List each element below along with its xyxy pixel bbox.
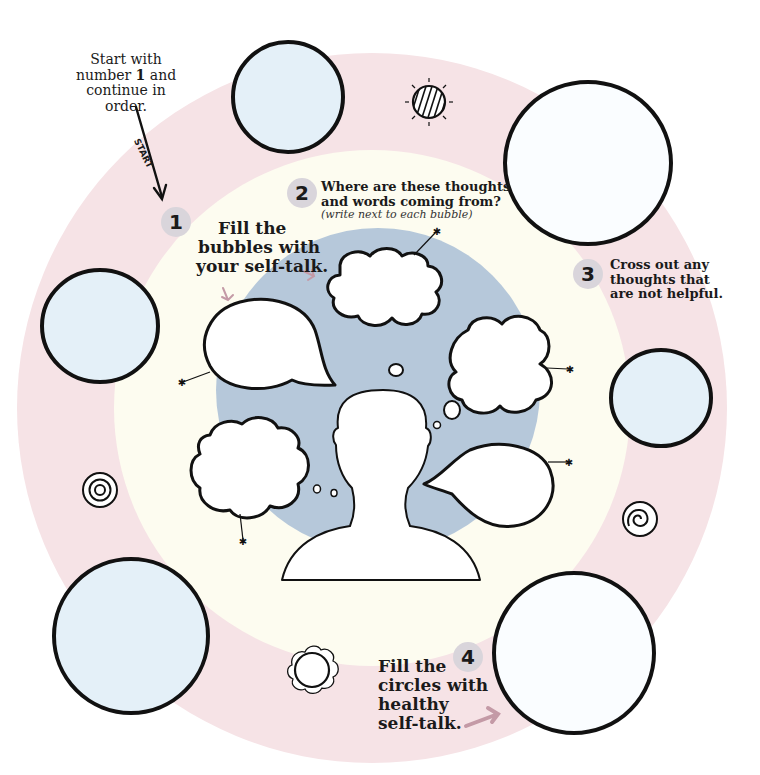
step-line: circles with (378, 676, 488, 695)
concentric-circles-icon (83, 473, 117, 507)
intro-instructions: Start with number 1 and continue in orde… (66, 52, 186, 115)
step-3-text: Cross out any thoughts that are not help… (610, 258, 723, 302)
step-line: healthy (378, 695, 488, 714)
intro-number: 1 (136, 67, 146, 83)
intro-line: number 1 and (66, 68, 186, 84)
step-line: thoughts that (610, 273, 723, 288)
step-1-badge: 1 (161, 207, 191, 237)
step-note: (write next to each bubble) (321, 209, 510, 221)
step-3-badge: 3 (573, 259, 603, 289)
step-line: Cross out any (610, 258, 723, 273)
step-1-text: Fill the bubbles with your self-talk. (218, 219, 328, 276)
scalloped-flower-icon (288, 646, 339, 693)
step-2-badge: 2 (287, 178, 317, 208)
intro-text: and (145, 67, 176, 83)
step-line: and words coming from? (321, 195, 510, 210)
spiral-icon (623, 502, 657, 536)
step-line: Where are these thoughts (321, 180, 510, 195)
step-4-text: Fill the circles with healthy self-talk. (378, 657, 488, 733)
step-line: are not helpful. (610, 287, 723, 302)
step-2-text: Where are these thoughts and words comin… (321, 180, 510, 221)
step-line: self-talk. (378, 714, 488, 733)
step-line: Fill the (378, 657, 488, 676)
step-line: Fill the (218, 219, 328, 238)
intro-line: order. (66, 99, 186, 115)
intro-text: number (76, 67, 136, 83)
striped-sun-icon (405, 78, 453, 126)
step-line: bubbles with (198, 238, 328, 257)
intro-line: continue in (66, 83, 186, 99)
intro-line: Start with (66, 52, 186, 68)
step-line: your self-talk. (196, 257, 328, 276)
